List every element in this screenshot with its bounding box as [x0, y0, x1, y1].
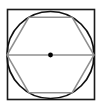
center-point-dot — [48, 53, 53, 58]
figure-container — [0, 0, 103, 108]
geometric-figure — [0, 0, 103, 108]
